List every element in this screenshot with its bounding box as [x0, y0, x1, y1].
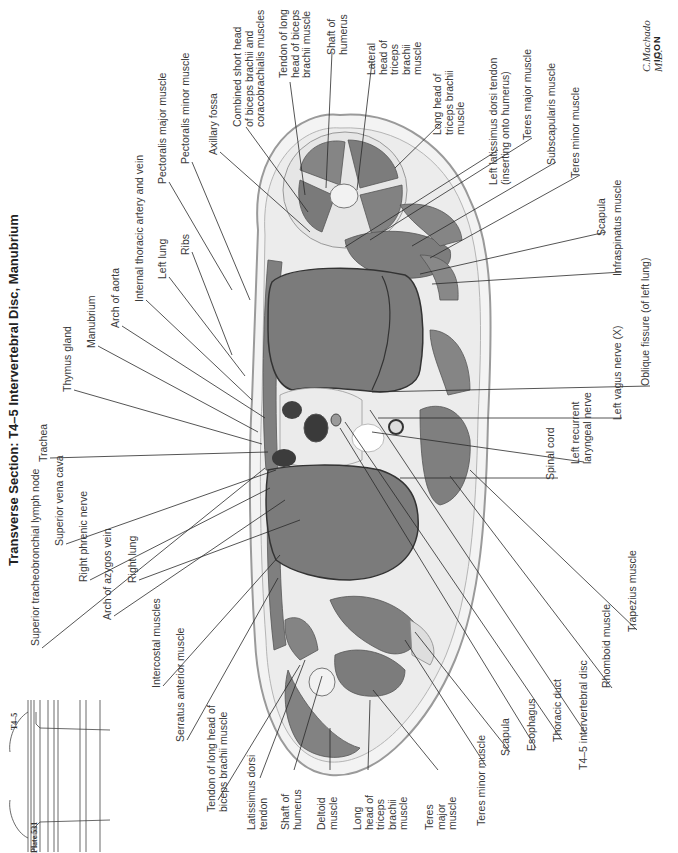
label-superior-vena-cava: Superior vena cava	[54, 456, 66, 546]
label-rhomboid-muscle: Rhomboid muscle	[601, 604, 613, 688]
right-lung	[266, 465, 418, 580]
label-superior-tracheobronchial-lymph-node: Superior tracheobronchial lymph node	[30, 469, 42, 646]
publisher-logo: ICON	[652, 36, 662, 63]
arch-of-aorta	[282, 401, 302, 419]
label-infraspinatus-muscle: Infraspinatus muscle	[612, 180, 624, 276]
label-combined-short-head: Combined short head of biceps brachii an…	[232, 10, 267, 127]
label-oblique-fissure: Oblique fissure (of left lung)	[640, 258, 652, 386]
label-manubrium: Manubrium	[86, 295, 98, 348]
label-subscapularis-muscle: Subscapularis muscle	[546, 63, 558, 165]
label-teres-minor-muscle-bottom: Teres minor muscle	[476, 735, 488, 826]
label-tendon-long-head-biceps-bottom: Tendon of long head of biceps brachii mu…	[206, 705, 229, 812]
label-teres-major-muscle-bottom: Teres major muscle	[424, 797, 459, 830]
label-trachea: Trachea	[38, 424, 50, 462]
label-ribs: Ribs	[180, 234, 192, 255]
label-teres-minor-muscle-top: Teres minor muscle	[570, 87, 582, 178]
humerus-bottom	[309, 668, 335, 696]
vertebral-disc	[352, 424, 384, 452]
label-right-lung: Right lung	[127, 536, 139, 583]
label-thymus-gland: Thymus gland	[62, 326, 74, 392]
label-lateral-head-triceps: Lateral head of triceps brachii muscle	[366, 40, 424, 75]
label-esophagus: Esophagus	[526, 698, 538, 751]
label-deltoid-muscle: Deltoid muscle	[316, 797, 339, 830]
label-tendon-long-head-biceps-top: Tendon of long head of biceps brachii mu…	[278, 9, 313, 78]
label-arch-of-azygos-vein: Arch of azygos vein	[102, 528, 114, 620]
label-right-phrenic-nerve: Right phrenic nerve	[78, 491, 90, 582]
label-intercostal-muscles: Intercostal muscles	[151, 598, 163, 688]
leader-line	[90, 488, 270, 580]
label-left-recurrent-laryngeal-nerve: Left recurrent laryngeal nerve	[570, 392, 593, 464]
label-long-head-triceps-top: Long head of triceps brachii muscle	[432, 70, 467, 135]
label-thoracic-duct: Thoracic duct	[552, 679, 564, 742]
level-thumbnail	[10, 700, 110, 852]
leader-line	[192, 162, 250, 300]
label-left-latissimus-dorsi-tendon: Left latissimus dorsi tendon (inserting …	[488, 58, 511, 185]
leader-line	[146, 300, 252, 400]
label-serratus-anterior-muscle: Serratus anterior muscle	[175, 628, 187, 742]
leader-line	[66, 470, 276, 544]
label-spinal-cord: Spinal cord	[545, 427, 557, 480]
label-shaft-of-humerus-top: Shaft of humerus	[326, 14, 349, 55]
label-latissimus-dorsi-tendon: Latissimus dorsi tendon	[246, 755, 269, 830]
label-arch-of-aorta: Arch of aorta	[110, 268, 122, 328]
esophagus	[331, 414, 341, 426]
label-pectoralis-major-muscle: Pectoralis major muscle	[157, 73, 169, 184]
leader-line	[192, 252, 232, 355]
label-left-lung: Left lung	[157, 239, 169, 279]
label-long-head-triceps-bottom: Long head of triceps brachii muscle	[352, 795, 410, 830]
label-scapula-top: Scapula	[596, 198, 608, 236]
spinal-cord	[389, 420, 403, 434]
trachea	[304, 414, 328, 442]
label-trapezius-muscle: Trapezius muscle	[627, 550, 639, 632]
left-lung	[268, 268, 423, 392]
label-teres-major-muscle-top: Teres major muscle	[522, 49, 534, 140]
label-left-vagus-nerve: Left vagus nerve (X)	[612, 325, 624, 420]
humerus-top	[330, 184, 358, 208]
leader-line	[50, 452, 268, 458]
anatomy-plate: Transverse Section: T4–5 Intervertebral …	[0, 0, 678, 853]
leader-line	[98, 346, 258, 432]
level-marker: T4–5	[10, 713, 19, 730]
plate-number: Plate 531	[30, 822, 39, 853]
leader-line	[122, 326, 265, 418]
label-axillary-fossa: Axillary fossa	[208, 93, 220, 155]
label-pectoralis-minor-muscle: Pectoralis minor muscle	[180, 53, 192, 164]
label-scapula-bottom: Scapula	[500, 718, 512, 756]
page-title: Transverse Section: T4–5 Intervertebral …	[6, 214, 21, 566]
label-internal-thoracic-artery-and-vein: Internal thoracic artery and vein	[134, 155, 146, 302]
leader-line	[169, 277, 245, 376]
label-t4-5-intervertebral-disc: T4–5 intervertebral disc	[578, 660, 590, 770]
label-shaft-of-humerus-bottom: Shaft of humerus	[280, 789, 303, 830]
superior-vena-cava	[272, 449, 296, 467]
